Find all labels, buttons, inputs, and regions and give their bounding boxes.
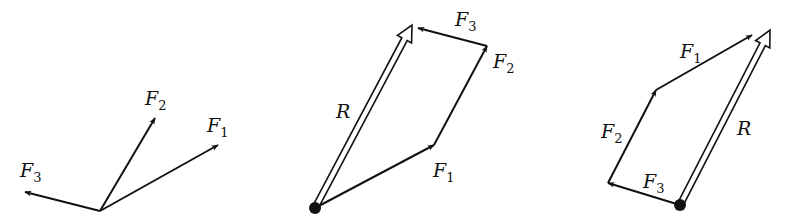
force-polygon-diagram: F2F1F3F3F2RF1F1F2F3R	[0, 0, 786, 223]
force-F1-arrow-icon	[100, 145, 218, 211]
label-F2: F2	[144, 87, 166, 113]
origin-dot-icon	[674, 199, 686, 211]
label-F1: F1	[679, 40, 701, 66]
label-F3: F3	[642, 170, 664, 196]
label-F2: F2	[492, 50, 514, 76]
panel-polygon-order-123: F3F2RF1	[309, 8, 514, 214]
force-F2-arrow-icon	[434, 46, 487, 145]
label-F1: F1	[206, 114, 228, 140]
resultant-R-arrow-icon	[312, 25, 412, 209]
label-R: R	[736, 117, 751, 139]
force-F2-arrow-icon	[100, 118, 155, 211]
force-F1-arrow-icon	[656, 35, 752, 90]
force-F3-arrow-icon	[25, 192, 100, 211]
label-F1: F1	[432, 159, 454, 185]
label-F3: F3	[454, 8, 476, 34]
origin-dot-icon	[309, 202, 321, 214]
panel-components: F2F1F3	[19, 87, 228, 211]
label-F2: F2	[600, 120, 622, 146]
label-R: R	[335, 100, 350, 122]
panel-polygon-order-321: F1F2F3R	[600, 30, 770, 211]
force-F3-arrow-icon	[418, 28, 487, 46]
label-F3: F3	[19, 159, 41, 185]
